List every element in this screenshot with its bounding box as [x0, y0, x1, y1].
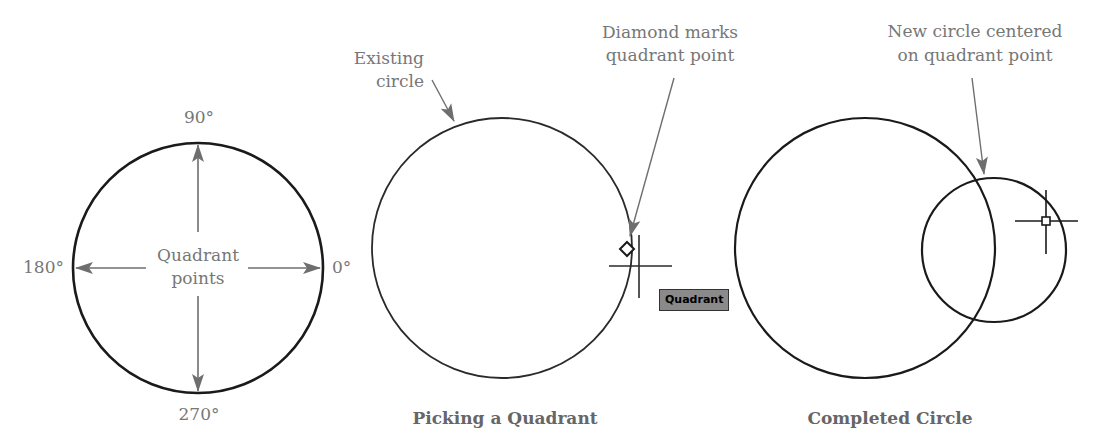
- panel-completed-circle: [735, 78, 1078, 378]
- new-circle-leader: [972, 78, 984, 174]
- angle-label-90: 90°: [176, 107, 222, 128]
- quadrant-snap-tooltip: Quadrant: [659, 289, 729, 311]
- pickbox-square-icon: [1042, 217, 1050, 225]
- angle-label-270: 270°: [170, 404, 228, 425]
- quadrant-diagram: 90° 180° 0° 270° Quadrant points Existin…: [0, 0, 1097, 448]
- diamond-callout-line1: Diamond marks: [580, 22, 760, 43]
- diamond-callout-line2: quadrant point: [580, 45, 760, 66]
- existing-circle: [372, 118, 632, 378]
- existing-circle-label-line2: circle: [330, 71, 424, 92]
- new-circle-callout-line1: New circle centered: [860, 21, 1090, 42]
- existing-circle-leader: [432, 80, 454, 121]
- new-circle-callout-line2: on quadrant point: [860, 45, 1090, 66]
- diagram-graphics: [0, 0, 1097, 448]
- panel-picking-quadrant: [372, 78, 674, 378]
- quadrant-points-label-line1: Quadrant: [138, 245, 258, 266]
- caption-picking-quadrant: Picking a Quadrant: [400, 408, 610, 428]
- caption-completed-circle: Completed Circle: [790, 408, 990, 428]
- diamond-leader: [630, 78, 674, 236]
- angle-label-0: 0°: [332, 257, 351, 278]
- original-circle: [735, 118, 995, 378]
- existing-circle-label-line1: Existing: [330, 48, 424, 69]
- quadrant-points-label-line2: points: [138, 268, 258, 289]
- angle-label-180: 180°: [10, 257, 64, 278]
